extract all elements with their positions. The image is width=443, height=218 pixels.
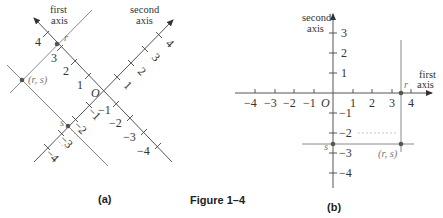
panel-b: −4 −3 −2 −1 1 2 3 4 O 3 2 1 −1 −2 −3 −4 … — [235, 12, 436, 213]
rs-label-b: (r, s) — [378, 148, 398, 160]
panel-b-label: (b) — [327, 201, 341, 213]
x-num-neg2: −2 — [283, 96, 296, 110]
y-num-neg2: −2 — [339, 126, 352, 140]
second-axis-label-a-1: second — [130, 4, 160, 15]
first-axis-label-a-2: axis — [51, 15, 68, 26]
first-axis-num-neg2: −2 — [109, 116, 122, 130]
x-num-neg4: −4 — [244, 96, 257, 110]
first-axis-ticks — [43, 31, 161, 149]
s-label-a: s — [60, 117, 64, 128]
second-axis-num-4: 4 — [163, 36, 177, 50]
origin-label-b: O — [321, 96, 330, 110]
first-axis-num-2: 2 — [63, 64, 69, 78]
y-num-3: 3 — [341, 26, 347, 40]
first-axis-num-neg4: −4 — [137, 144, 150, 158]
first-axis-label-b-2: axis — [417, 79, 434, 90]
second-axis-num-1: 1 — [121, 78, 135, 92]
first-axis-num-1: 1 — [77, 78, 83, 92]
x-num-4: 4 — [408, 96, 414, 110]
first-axis-num-neg3: −3 — [123, 130, 136, 144]
y-num-neg4: −4 — [339, 166, 352, 180]
r-point-b — [399, 91, 404, 96]
r-point-a — [55, 42, 60, 47]
panel-a: first axis second axis 4 3 2 1 −1 −2 −3 … — [7, 4, 177, 205]
origin-label-a: O — [91, 86, 100, 100]
y-num-neg1: −1 — [339, 106, 352, 120]
second-axis-num-3: 3 — [149, 50, 163, 64]
second-axis-label-b-1: second — [302, 12, 332, 23]
first-axis-label-a-1: first — [50, 4, 67, 15]
s-label-b: s — [324, 141, 328, 152]
rs-label-a: (r, s) — [28, 74, 48, 86]
first-axis-num-3: 3 — [51, 51, 57, 65]
x-num-neg3: −3 — [264, 96, 277, 110]
y-num-1: 1 — [341, 66, 347, 80]
rs-point-b — [399, 142, 404, 147]
x-num-neg1: −1 — [303, 96, 316, 110]
s-point-b — [331, 142, 336, 147]
r-label-b: r — [404, 79, 409, 90]
second-axis-num-neg4: −4 — [43, 146, 62, 165]
figure-caption: Figure 1–4 — [190, 194, 246, 206]
s-point-a — [66, 124, 71, 129]
first-axis-num-4: 4 — [35, 35, 41, 49]
figure-1-4: first axis second axis 4 3 2 1 −1 −2 −3 … — [0, 0, 443, 218]
second-axis-label-b-2: axis — [307, 23, 324, 34]
rs-point-a — [20, 78, 25, 83]
panel-a-label: (a) — [98, 193, 112, 205]
second-axis-label-a-2: axis — [136, 15, 153, 26]
y-num-2: 2 — [341, 46, 347, 60]
second-axis-num-2: 2 — [135, 64, 149, 78]
x-num-3: 3 — [389, 96, 395, 110]
x-num-2: 2 — [369, 96, 375, 110]
y-num-neg3: −3 — [339, 146, 352, 160]
